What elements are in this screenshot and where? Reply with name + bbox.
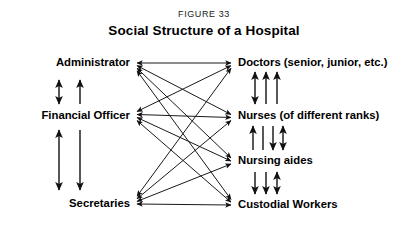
diagram-canvas: AdministratorFinancial OfficerSecretarie… [0, 44, 408, 228]
figure-number-label: FIGURE 33 [0, 9, 408, 19]
diagram-edges [0, 44, 408, 228]
node-custodial-workers: Custodial Workers [238, 199, 338, 210]
figure-title: Social Structure of a Hospital [0, 23, 408, 38]
edge-administrator-to-nursing-aides [137, 68, 231, 158]
edge-secretaries-to-custodial-workers [137, 204, 231, 205]
node-secretaries: Secretaries [69, 198, 130, 209]
edge-financial-officer-to-nurses [137, 115, 231, 118]
node-doctors: Doctors (senior, junior, etc.) [238, 57, 387, 68]
node-nurses: Nurses (of different ranks) [238, 110, 379, 121]
node-financial-officer: Financial Officer [41, 110, 130, 121]
edge-secretaries-to-nursing-aides [137, 164, 231, 201]
node-administrator: Administrator [56, 57, 130, 68]
figure-root: FIGURE 33 Social Structure of a Hospital… [0, 0, 408, 228]
edge-financial-officer-to-nursing-aides [137, 118, 231, 162]
node-nursing-aides: Nursing aides [238, 155, 313, 166]
